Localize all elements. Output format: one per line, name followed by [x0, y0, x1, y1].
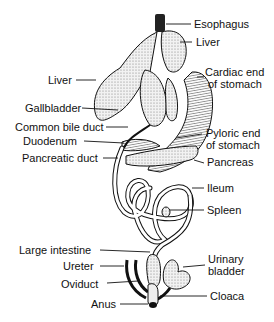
label-spleen: Spleen [207, 204, 241, 216]
large-intestine-shape [147, 254, 161, 287]
label-pyloric-end: Pyloric end of stomach [206, 127, 260, 151]
label-cardiac-end: Cardiac end of stomach [205, 66, 264, 90]
label-esophagus: Esophagus [194, 18, 249, 30]
label-oviduct: Oviduct [61, 278, 98, 290]
label-cardiac-end-line2: of stomach [205, 78, 264, 90]
label-pancreatic-duct: Pancreatic duct [22, 152, 98, 164]
label-urinary-bladder: Urinary bladder [208, 253, 245, 277]
label-urinary-bladder-line1: Urinary [208, 253, 245, 265]
label-pancreas: Pancreas [207, 156, 253, 168]
label-gallbladder: Gallbladder [25, 102, 81, 114]
label-liver-right: Liver [196, 36, 220, 48]
esophagus-shape [155, 14, 165, 32]
liver-middle-lobe-2 [166, 78, 178, 121]
liver-right-lobe [161, 31, 186, 72]
label-liver-left: Liver [48, 74, 72, 86]
label-cardiac-end-line1: Cardiac end [205, 66, 264, 78]
label-ileum: Ileum [207, 182, 234, 194]
label-pyloric-end-line1: Pyloric end [206, 127, 260, 139]
label-common-bile-duct: Common bile duct [15, 121, 104, 133]
spleen-shape [162, 207, 170, 217]
label-urinary-bladder-line2: bladder [208, 265, 245, 277]
label-duodenum: Duodenum [23, 135, 77, 147]
label-anus: Anus [91, 298, 116, 310]
label-large-intestine: Large intestine [19, 244, 91, 256]
liver-middle-lobe [140, 70, 166, 126]
label-cloaca: Cloaca [210, 290, 244, 302]
label-ureter: Ureter [63, 260, 94, 272]
label-pyloric-end-line2: of stomach [206, 139, 260, 151]
urinary-bladder-shape [163, 260, 190, 289]
